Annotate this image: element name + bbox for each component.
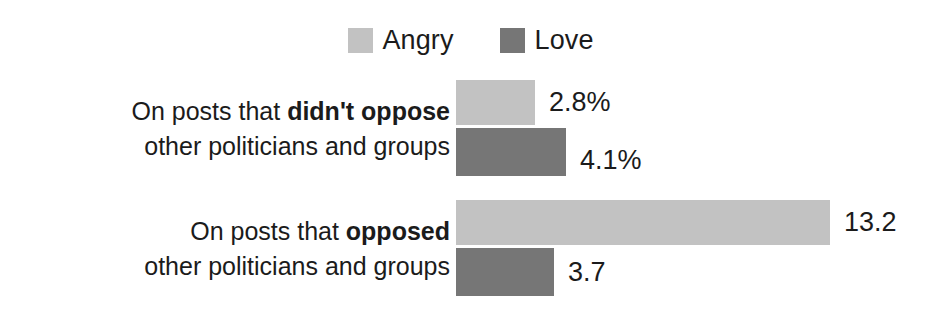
bar-value-angry-didnt-oppose: 2.8% xyxy=(549,89,611,116)
chart-legend: Angry Love xyxy=(0,20,941,60)
legend-swatch-love xyxy=(500,28,525,53)
bar-row-angry: 2.8% xyxy=(456,80,642,125)
bar-group-bars-didnt-oppose: 2.8% 4.1% xyxy=(456,80,642,176)
legend-swatch-angry xyxy=(348,28,373,53)
bar-angry-didnt-oppose xyxy=(456,80,535,125)
grouped-bar-chart: Angry Love On posts that didn't oppose o… xyxy=(0,0,941,330)
bar-row-angry: 13.2 xyxy=(456,200,897,245)
bar-row-love: 3.7 xyxy=(456,248,897,296)
bar-value-love-opposed: 3.7 xyxy=(568,259,606,286)
group-label-line-1: On posts that didn't oppose xyxy=(0,94,450,129)
chart-plot-area: On posts that didn't oppose other politi… xyxy=(0,80,941,314)
bar-value-love-didnt-oppose: 4.1% xyxy=(580,147,642,174)
bar-value-angry-opposed: 13.2 xyxy=(844,209,897,236)
group-label-line-2: other politicians and groups xyxy=(0,129,450,164)
group-label-line-1-emphasis: opposed xyxy=(346,217,450,245)
legend-item-love: Love xyxy=(500,27,594,54)
bar-group-label-opposed: On posts that opposed other politicians … xyxy=(0,214,450,284)
legend-label-love: Love xyxy=(535,27,594,54)
bar-group-bars-opposed: 13.2 3.7 xyxy=(456,200,897,296)
bar-angry-opposed xyxy=(456,200,830,245)
bar-group-didnt-oppose: On posts that didn't oppose other politi… xyxy=(0,80,941,194)
bar-row-love: 4.1% xyxy=(456,128,642,176)
bar-group-label-didnt-oppose: On posts that didn't oppose other politi… xyxy=(0,94,450,164)
group-label-line-1-prefix: On posts that xyxy=(190,217,346,245)
legend-label-angry: Angry xyxy=(383,27,454,54)
group-label-line-2: other politicians and groups xyxy=(0,249,450,284)
group-label-line-1: On posts that opposed xyxy=(0,214,450,249)
legend-item-angry: Angry xyxy=(348,27,454,54)
bar-love-opposed xyxy=(456,248,554,296)
group-label-line-1-emphasis: didn't oppose xyxy=(287,97,450,125)
group-label-line-1-prefix: On posts that xyxy=(131,97,287,125)
bar-group-opposed: On posts that opposed other politicians … xyxy=(0,200,941,314)
bar-love-didnt-oppose xyxy=(456,128,566,176)
